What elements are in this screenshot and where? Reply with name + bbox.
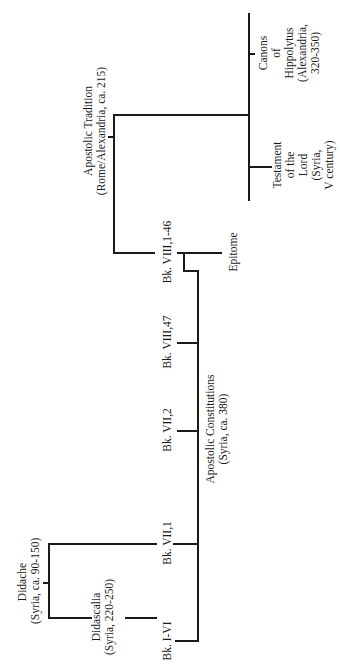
canons-line-3: Hippolytus: [283, 16, 296, 90]
bk8-1-46-to-epitome-line: [177, 252, 222, 254]
didache-name: Didache: [16, 540, 29, 624]
bk8-47-branch: [177, 342, 198, 344]
epitome-label: Epitome: [227, 224, 240, 280]
bk7-1-branch: [173, 543, 198, 545]
bk1-6-branch: [175, 640, 199, 642]
testament-line-4: (Syria,: [310, 125, 323, 205]
apostolic-tradition-bracket-line: [113, 114, 115, 253]
didascalia-label: Didascalia (Syria, 220-250): [90, 579, 116, 655]
didache-label: Didache (Syria, ca. 90-150): [16, 540, 42, 624]
apostolic-tradition-to-bk8-line: [113, 252, 155, 254]
canons-line-4: (Alexandria,: [296, 16, 309, 90]
testament-line-2: of the: [284, 125, 297, 205]
bk8-47-label: Bk. VIII,47: [161, 308, 174, 376]
didache-meta: (Syria, ca. 90-150): [29, 540, 42, 624]
apostolic-tradition-meta: (Rome/Alexandria, ca. 215): [95, 56, 108, 206]
apostolic-constitutions-name: Apostolic Constitutions: [204, 364, 217, 494]
canons-line-1: Canons: [257, 16, 270, 90]
bk1-6-label: Bk. I-VI: [161, 616, 174, 665]
didascalia-to-bk1-6-line: [125, 617, 157, 619]
apostolic-tradition-to-later-line: [113, 114, 249, 116]
didache-to-didascalia-line: [48, 617, 92, 619]
bk8-1-46-label: Bk. VIII,1-46: [161, 214, 174, 290]
apostolic-constitutions-trunk: [197, 270, 199, 641]
bk7-1-label: Bk. VII,1: [161, 515, 174, 571]
apostolic-constitutions-meta: (Syria, ca. 380): [217, 364, 230, 494]
didascalia-name: Didascalia: [90, 579, 103, 655]
testament-line-1: Testament: [271, 125, 284, 205]
apostolic-tradition-tick: [108, 136, 113, 138]
didascalia-meta: (Syria, 220-250): [103, 579, 116, 655]
canons-tick: [248, 53, 255, 55]
didache-tick: [43, 582, 48, 584]
didache-bracket-line: [48, 543, 50, 618]
testament-line-3: Lord: [297, 125, 310, 205]
canons-of-hippolytus-label: Canons of Hippolytus (Alexandria, 320-35…: [257, 16, 322, 90]
canons-line-2: of: [270, 16, 283, 90]
apostolic-constitutions-label: Apostolic Constitutions (Syria, ca. 380): [204, 364, 230, 494]
testament-tick: [248, 166, 272, 168]
apostolic-tradition-name: Apostolic Tradition: [82, 56, 95, 206]
testament-line-5: V century): [323, 125, 336, 205]
trunk-step-vertical: [183, 252, 185, 271]
testament-of-the-lord-label: Testament of the Lord (Syria, V century): [271, 125, 336, 205]
bk7-2-branch: [177, 430, 198, 432]
bk7-2-label: Bk. VII,2: [161, 402, 174, 458]
trunk-step-horizontal: [183, 270, 198, 272]
canons-line-5: 320-350): [309, 16, 322, 90]
later-orders-bracket-line: [248, 13, 250, 201]
apostolic-tradition-label: Apostolic Tradition (Rome/Alexandria, ca…: [82, 56, 108, 206]
didache-to-bk7-1-line: [48, 543, 157, 545]
